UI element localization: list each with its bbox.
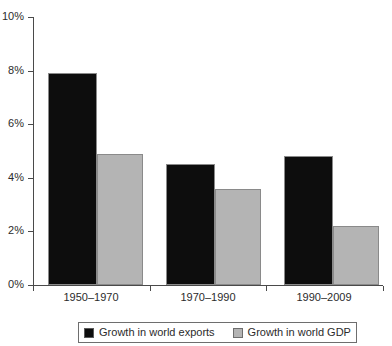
legend-label-gdp: Growth in world GDP	[248, 327, 351, 338]
bar-exports-1950-1970	[48, 73, 97, 285]
bar-gdp-1950-1970	[97, 154, 143, 285]
x-axis-label-1950-1970: 1950–1970	[31, 292, 151, 303]
x-axis-label-1970-1990: 1970–1990	[148, 292, 268, 303]
legend-label-exports: Growth in world exports	[99, 327, 215, 338]
y-axis-label-4: 4%	[0, 172, 24, 183]
y-axis-label-8: 8%	[0, 65, 24, 76]
bar-chart: 10% 8% 6% 4% 2% 0% 1950–1970 1970–1990 1…	[0, 0, 392, 346]
black-square-swatch-icon	[84, 328, 94, 338]
x-axis-label-1990-2009: 1990–2009	[264, 292, 384, 303]
y-axis-label-0: 0%	[0, 279, 24, 290]
bar-gdp-1990-2009	[333, 226, 379, 285]
bar-exports-1990-2009	[284, 156, 333, 285]
x-axis-tick-end	[383, 286, 384, 291]
y-axis-label-10: 10%	[0, 11, 24, 22]
plot-area	[33, 17, 383, 285]
bar-exports-1970-1990	[166, 164, 215, 285]
chart-legend: Growth in world exports Growth in world …	[78, 322, 357, 343]
x-axis-line	[33, 285, 383, 286]
legend-item-gdp: Growth in world GDP	[233, 327, 351, 338]
y-axis-label-6: 6%	[0, 118, 24, 129]
x-axis-tick-2	[266, 286, 267, 291]
y-axis-label-2: 2%	[0, 225, 24, 236]
x-axis-tick-1	[150, 286, 151, 291]
bar-gdp-1970-1990	[215, 189, 261, 285]
gray-square-swatch-icon	[233, 328, 243, 338]
legend-item-exports: Growth in world exports	[84, 327, 215, 338]
x-axis-tick-start	[33, 286, 34, 291]
